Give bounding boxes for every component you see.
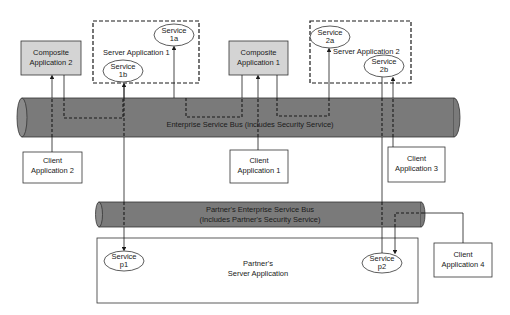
- service-2b-line2: 2b: [380, 65, 388, 74]
- composite-1-line2: Application 1: [237, 58, 280, 67]
- service-2b: Service 2b: [364, 55, 404, 77]
- service-2a-line2: 2a: [326, 36, 335, 45]
- esb-architecture-diagram: Enterprise Service Bus (includes Securit…: [0, 0, 510, 315]
- client-3-line2: Application 3: [395, 164, 438, 173]
- client-2-line1: Client: [43, 156, 63, 165]
- server-app-2-label: Server Application 2: [333, 47, 400, 56]
- client-2-line2: Application 2: [31, 166, 74, 175]
- partner-server-label-line1: Partner's: [243, 259, 273, 268]
- client-3-line1: Client: [407, 154, 427, 163]
- service-2a: Service 2a: [310, 26, 350, 48]
- client-application-2: Client Application 2: [23, 152, 82, 183]
- client-application-4: Client Application 4: [434, 243, 492, 277]
- partner-esb-label-line1: Partner's Enterprise Service Bus: [206, 205, 314, 214]
- partner-enterprise-service-bus: Partner's Enterprise Service Bus (Includ…: [96, 202, 426, 227]
- client-1-line1: Client: [249, 156, 269, 165]
- service-1a: Service 1a: [154, 24, 194, 46]
- client-4-line2: Application 4: [442, 260, 485, 269]
- service-p2-line2: p2: [378, 262, 386, 271]
- composite-application-1: Composite Application 1: [229, 41, 288, 75]
- client-application-3: Client Application 3: [388, 147, 445, 182]
- esb-label: Enterprise Service Bus (includes Securit…: [166, 120, 334, 129]
- service-1a-line2: 1a: [170, 34, 179, 43]
- service-p2: Service p2: [362, 253, 402, 273]
- client-4-line1: Client: [453, 250, 473, 259]
- composite-2-line1: Composite: [33, 48, 69, 57]
- client-application-1: Client Application 1: [230, 150, 288, 183]
- service-1b-line2: 1b: [119, 70, 127, 79]
- service-1b: Service 1b: [103, 60, 143, 82]
- composite-2-line2: Application 2: [30, 58, 73, 67]
- partner-esb-label-line2: (Includes Partner's Security Service): [199, 215, 321, 224]
- service-p1: Service p1: [104, 251, 144, 271]
- composite-1-line1: Composite: [241, 48, 277, 57]
- composite-application-2: Composite Application 2: [21, 41, 81, 75]
- server-app-1-label: Server Application 1: [103, 48, 170, 57]
- partner-server-label-line2: Server Application: [228, 269, 288, 278]
- client-1-line2: Application 1: [238, 166, 281, 175]
- service-p1-line2: p1: [120, 260, 128, 269]
